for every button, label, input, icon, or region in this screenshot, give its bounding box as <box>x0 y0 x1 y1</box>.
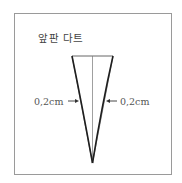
arrow-left-head-icon <box>75 99 79 103</box>
dart-diagram <box>0 0 182 183</box>
measurement-label-left: 0,2cm <box>34 96 63 107</box>
dart-curved-leg-right <box>93 56 114 163</box>
arrow-right-head-icon <box>106 99 110 103</box>
measurement-label-right: 0,2cm <box>120 96 149 107</box>
dart-curved-leg-left <box>72 56 93 163</box>
